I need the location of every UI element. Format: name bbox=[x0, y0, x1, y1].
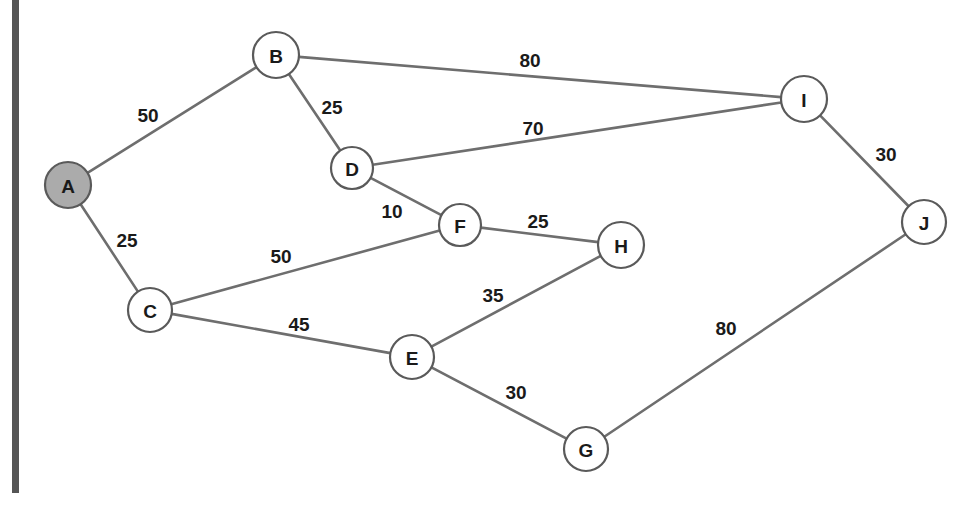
graph-edge-g-j bbox=[604, 234, 905, 436]
graph-node-d[interactable]: D bbox=[331, 147, 373, 189]
node-circle-d[interactable] bbox=[331, 147, 373, 189]
edge-weight-g-j: 80 bbox=[715, 318, 736, 339]
graph-diagram-canvas: ABCDEFGHIJ 50252580701050452535308030 bbox=[0, 0, 980, 505]
node-circle-j[interactable] bbox=[902, 200, 946, 244]
graph-node-f[interactable]: F bbox=[439, 204, 481, 246]
node-circle-i[interactable] bbox=[781, 76, 827, 122]
edge-weight-d-f: 10 bbox=[381, 201, 402, 222]
graph-node-b[interactable]: B bbox=[253, 32, 299, 78]
graph-node-j[interactable]: J bbox=[902, 200, 946, 244]
edge-weight-f-h: 25 bbox=[527, 211, 549, 232]
graph-edge-c-f bbox=[171, 231, 440, 305]
edge-weight-a-c: 25 bbox=[116, 230, 138, 251]
graph-node-i[interactable]: I bbox=[781, 76, 827, 122]
graph-node-c[interactable]: C bbox=[128, 288, 172, 332]
node-circle-e[interactable] bbox=[390, 335, 434, 379]
node-circle-c[interactable] bbox=[128, 288, 172, 332]
node-circle-b[interactable] bbox=[253, 32, 299, 78]
graph-edge-b-d bbox=[289, 74, 340, 150]
node-circle-h[interactable] bbox=[598, 222, 644, 268]
graph-edge-b-i bbox=[299, 57, 781, 97]
edge-weight-c-e: 45 bbox=[288, 314, 310, 335]
edge-weight-e-h: 35 bbox=[482, 285, 504, 306]
graph-svg: ABCDEFGHIJ 50252580701050452535308030 bbox=[0, 0, 980, 505]
graph-edge-i-j bbox=[820, 115, 909, 206]
graph-node-h[interactable]: H bbox=[598, 222, 644, 268]
edge-weight-e-g: 30 bbox=[505, 382, 526, 403]
edge-weight-b-d: 25 bbox=[321, 97, 343, 118]
node-circle-a[interactable] bbox=[45, 162, 91, 208]
edge-weight-i-j: 30 bbox=[875, 144, 896, 165]
graph-edge-e-g bbox=[431, 367, 566, 438]
edge-weight-b-i: 80 bbox=[519, 50, 540, 71]
graph-edge-f-h bbox=[481, 228, 598, 243]
graph-edge-e-h bbox=[431, 256, 600, 347]
graph-node-e[interactable]: E bbox=[390, 335, 434, 379]
node-circle-f[interactable] bbox=[439, 204, 481, 246]
graph-edge-c-e bbox=[172, 314, 391, 353]
graph-edge-a-b bbox=[88, 67, 257, 173]
graph-edge-a-c bbox=[81, 204, 138, 291]
graph-node-g[interactable]: G bbox=[564, 427, 608, 471]
graph-edge-d-f bbox=[371, 178, 442, 215]
graph-node-a[interactable]: A bbox=[45, 162, 91, 208]
edge-weight-c-f: 50 bbox=[270, 246, 291, 267]
graph-edge-d-i bbox=[373, 102, 782, 164]
edges-layer bbox=[81, 57, 909, 439]
edge-weight-d-i: 70 bbox=[522, 118, 543, 139]
node-circle-g[interactable] bbox=[564, 427, 608, 471]
edge-weight-a-b: 50 bbox=[137, 105, 158, 126]
nodes-layer: ABCDEFGHIJ bbox=[45, 32, 946, 471]
